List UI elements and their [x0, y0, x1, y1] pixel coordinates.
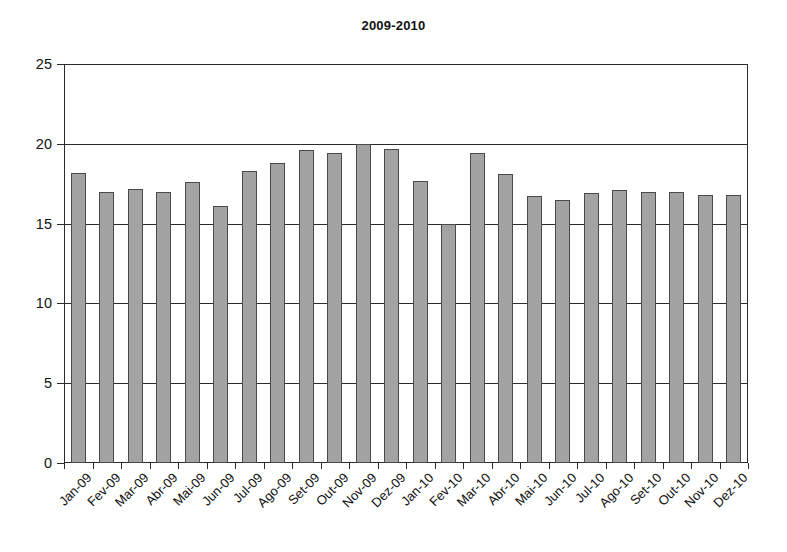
bar — [327, 153, 342, 463]
x-tick-mark — [435, 463, 436, 469]
x-tick-mark — [549, 463, 550, 469]
x-tick-mark — [178, 463, 179, 469]
bar — [669, 192, 684, 463]
bar — [698, 195, 713, 463]
x-tick-mark — [207, 463, 208, 469]
bar — [185, 182, 200, 463]
bar — [441, 224, 456, 463]
bar — [299, 150, 314, 463]
x-tick-mark — [264, 463, 265, 469]
bar — [470, 153, 485, 463]
bar — [584, 193, 599, 463]
y-tick-label: 0 — [8, 455, 52, 471]
x-tick-mark — [606, 463, 607, 469]
x-tick-mark — [150, 463, 151, 469]
x-tick-mark — [634, 463, 635, 469]
x-tick-mark — [235, 463, 236, 469]
y-tick-mark — [57, 144, 64, 145]
x-tick-mark — [720, 463, 721, 469]
x-tick-mark — [406, 463, 407, 469]
x-tick-mark — [321, 463, 322, 469]
y-tick-mark — [57, 463, 64, 464]
x-tick-mark — [577, 463, 578, 469]
bar — [99, 192, 114, 463]
y-tick-label: 20 — [8, 136, 52, 152]
x-tick-mark — [463, 463, 464, 469]
y-tick-label: 25 — [8, 56, 52, 72]
chart-container: 2009-2010 0510152025 Jan-09Fev-09Mar-09A… — [0, 0, 787, 552]
bar — [156, 192, 171, 463]
bar — [641, 192, 656, 463]
bar — [384, 149, 399, 463]
bar — [270, 163, 285, 463]
bars-layer — [64, 64, 748, 463]
bar — [413, 181, 428, 463]
x-tick-mark — [349, 463, 350, 469]
x-tick-mark — [520, 463, 521, 469]
y-tick-mark — [57, 64, 64, 65]
chart-title: 2009-2010 — [0, 18, 787, 33]
bar — [555, 200, 570, 463]
x-tick-mark — [93, 463, 94, 469]
bar — [213, 206, 228, 463]
y-tick-label: 5 — [8, 375, 52, 391]
bar — [726, 195, 741, 463]
x-tick-mark — [492, 463, 493, 469]
bar — [356, 144, 371, 463]
x-tick-mark — [64, 463, 65, 469]
x-tick-mark — [663, 463, 664, 469]
bar — [612, 190, 627, 463]
x-tick-mark — [121, 463, 122, 469]
bar — [71, 173, 86, 463]
x-tick-mark — [378, 463, 379, 469]
bar — [128, 189, 143, 464]
y-tick-label: 10 — [8, 295, 52, 311]
y-tick-label: 15 — [8, 216, 52, 232]
y-tick-mark — [57, 383, 64, 384]
x-tick-mark — [748, 463, 749, 469]
y-tick-mark — [57, 224, 64, 225]
bar — [498, 174, 513, 463]
bar — [242, 171, 257, 463]
x-tick-mark — [292, 463, 293, 469]
y-tick-mark — [57, 303, 64, 304]
x-tick-mark — [691, 463, 692, 469]
x-axis-labels: Jan-09Fev-09Mar-09Abr-09Mai-09Jun-09Jul-… — [64, 470, 748, 552]
bar — [527, 196, 542, 463]
